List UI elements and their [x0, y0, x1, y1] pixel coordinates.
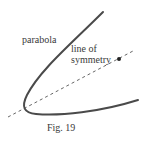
figure-caption: Fig. 19: [47, 122, 75, 133]
parabola-diagram: [0, 0, 150, 142]
parabola-label: parabola: [22, 34, 56, 45]
line-of-symmetry-label-line2: symmetry: [71, 54, 111, 65]
line-of-symmetry-label: line of symmetry: [71, 43, 111, 65]
focus-point: [117, 57, 121, 61]
parabola-figure: parabola line of symmetry Fig. 19: [0, 0, 150, 142]
line-of-symmetry-label-line1: line of: [71, 43, 111, 54]
